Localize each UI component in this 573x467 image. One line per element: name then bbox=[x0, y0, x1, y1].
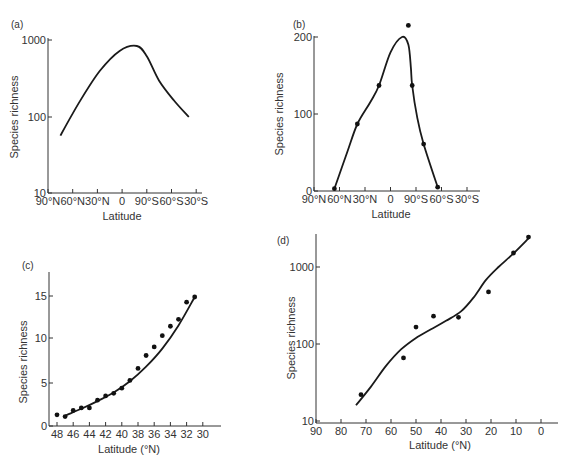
data-point bbox=[168, 324, 173, 329]
x-tick-label: 60°S bbox=[430, 193, 454, 205]
y-tick-label: 1000 bbox=[290, 261, 314, 273]
y-axis-label-a: Species richness bbox=[8, 75, 20, 159]
trend-curve bbox=[65, 297, 195, 416]
x-tick-label: 60 bbox=[385, 425, 397, 437]
x-axis-label-b: Latitude bbox=[371, 208, 410, 220]
data-point bbox=[486, 289, 491, 294]
x-tick-label: 60°N bbox=[327, 193, 352, 205]
x-tick-label: 30 bbox=[197, 428, 209, 440]
x-tick-label: 42 bbox=[99, 428, 111, 440]
data-point bbox=[456, 315, 461, 320]
data-point bbox=[421, 142, 426, 147]
data-point bbox=[332, 186, 337, 191]
axes-b: 010020090°N60°N30°N090°S60°S30°S bbox=[294, 23, 480, 205]
x-tick-label: 46 bbox=[67, 428, 79, 440]
data-point bbox=[192, 295, 197, 300]
data-point bbox=[55, 412, 60, 417]
x-tick-label: 60°S bbox=[160, 195, 184, 207]
data-point bbox=[355, 122, 360, 127]
data-point bbox=[95, 398, 100, 403]
x-tick-label: 0 bbox=[538, 425, 544, 437]
x-tick-label: 90°N bbox=[36, 195, 61, 207]
x-tick-label: 30°N bbox=[85, 195, 110, 207]
y-tick-label: 100 bbox=[296, 338, 314, 350]
trend-curve bbox=[60, 46, 188, 136]
x-tick-label: 90 bbox=[310, 425, 322, 437]
y-tick-label: 1000 bbox=[22, 34, 46, 46]
trend-curve bbox=[356, 238, 529, 405]
x-tick-label: 30°S bbox=[455, 193, 479, 205]
x-axis-label-d: Latitude (°N) bbox=[409, 439, 471, 451]
data-point bbox=[176, 317, 181, 322]
x-tick-label: 32 bbox=[180, 428, 192, 440]
data-point bbox=[144, 353, 149, 358]
data-point bbox=[410, 83, 415, 88]
data-point bbox=[127, 378, 132, 383]
data-point bbox=[401, 355, 406, 360]
figure-canvas: (a) 10100100090°N60°N30°N090°S60°S30°S L… bbox=[0, 0, 573, 467]
x-tick-label: 10 bbox=[510, 425, 522, 437]
y-axis-label-d: Species richness bbox=[285, 296, 297, 380]
y-tick-label: 100 bbox=[28, 111, 46, 123]
y-tick-label: 15 bbox=[35, 290, 47, 302]
data-point bbox=[184, 300, 189, 305]
x-tick-label: 70 bbox=[360, 425, 372, 437]
panel-label-a: (a) bbox=[11, 19, 23, 30]
data-point bbox=[87, 406, 92, 411]
y-tick-label: 5 bbox=[41, 377, 47, 389]
panel-a: (a) 10100100090°N60°N30°N090°S60°S30°S L… bbox=[8, 19, 208, 222]
x-tick-label: 0 bbox=[119, 195, 125, 207]
x-tick-label: 36 bbox=[148, 428, 160, 440]
data-point bbox=[119, 386, 124, 391]
y-axis-label-b: Species richness bbox=[273, 72, 285, 156]
panel-label-b: (b) bbox=[293, 19, 305, 30]
axes-c: 05101548464442403836343230 bbox=[35, 272, 221, 440]
data-point bbox=[414, 325, 419, 330]
y-tick-label: 0 bbox=[41, 420, 47, 432]
y-tick-label: 100 bbox=[294, 108, 312, 120]
panel-d: (d) 1010010009080706050403020100 Latitud… bbox=[277, 234, 558, 451]
x-tick-label: 20 bbox=[485, 425, 497, 437]
panel-label-c: (c) bbox=[22, 260, 34, 271]
panel-label-d: (d) bbox=[277, 235, 289, 246]
data-point bbox=[79, 406, 84, 411]
data-point bbox=[152, 344, 157, 349]
data-point bbox=[103, 394, 108, 399]
data-point bbox=[136, 366, 141, 371]
axes-a: 10100100090°N60°N30°N090°S60°S30°S bbox=[22, 34, 209, 207]
data-point bbox=[511, 251, 516, 256]
x-axis-label-c: Latitude (°N) bbox=[98, 443, 160, 455]
x-tick-label: 30°N bbox=[353, 193, 378, 205]
x-tick-label: 90°S bbox=[135, 195, 159, 207]
panel-c: (c) 05101548464442403836343230 Latitude … bbox=[17, 260, 221, 455]
x-tick-label: 0 bbox=[387, 193, 393, 205]
x-tick-label: 30 bbox=[460, 425, 472, 437]
panel-b: (b) 010020090°N60°N30°N090°S60°S30°S Lat… bbox=[273, 19, 480, 220]
data-point bbox=[406, 23, 411, 28]
data-point bbox=[160, 333, 165, 338]
x-tick-label: 38 bbox=[132, 428, 144, 440]
x-tick-label: 40 bbox=[116, 428, 128, 440]
x-tick-label: 90°S bbox=[404, 193, 428, 205]
data-point bbox=[526, 235, 531, 240]
data-point bbox=[435, 185, 440, 190]
y-tick-label: 10 bbox=[35, 332, 47, 344]
data-point bbox=[111, 391, 116, 396]
y-axis-label-c: Species richness bbox=[17, 320, 29, 404]
data-point bbox=[359, 392, 364, 397]
x-tick-label: 50 bbox=[410, 425, 422, 437]
x-tick-label: 40 bbox=[435, 425, 447, 437]
axes-d: 1010010009080706050403020100 bbox=[290, 234, 558, 437]
data-point bbox=[71, 408, 76, 413]
x-tick-label: 60°N bbox=[60, 195, 85, 207]
x-tick-label: 30°S bbox=[184, 195, 208, 207]
x-tick-label: 34 bbox=[164, 428, 176, 440]
x-tick-label: 80 bbox=[335, 425, 347, 437]
data-point bbox=[63, 414, 68, 419]
trend-curve bbox=[334, 37, 437, 189]
x-axis-label-a: Latitude bbox=[102, 210, 141, 222]
x-tick-label: 48 bbox=[51, 428, 63, 440]
data-point bbox=[377, 83, 382, 88]
x-tick-label: 44 bbox=[83, 428, 95, 440]
y-tick-label: 200 bbox=[294, 31, 312, 43]
